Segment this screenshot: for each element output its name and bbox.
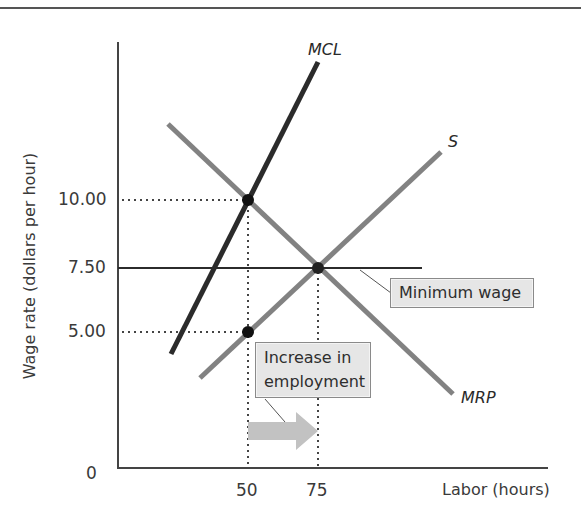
minimum-wage-callout: Minimum wage (390, 278, 534, 308)
x-tick-50: 50 (236, 480, 258, 500)
point-supply-50 (242, 326, 254, 338)
mcl-curve (171, 62, 318, 354)
y-tick-7-50: 7.50 (68, 257, 106, 277)
y-tick-10: 10.00 (58, 189, 107, 209)
minimum-wage-callout-text: Minimum wage (399, 283, 521, 302)
point-mcl-mrp (242, 194, 254, 206)
origin-label: 0 (86, 463, 97, 483)
y-tick-5: 5.00 (68, 321, 106, 341)
x-axis-label: Labor (hours) (442, 480, 550, 499)
supply-label: S (448, 132, 458, 151)
increase-employment-callout: Increase in employment (255, 342, 371, 398)
x-tick-75: 75 (306, 480, 328, 500)
increase-callout-line-2: employment (264, 370, 362, 394)
min-wage-leader (360, 270, 391, 293)
increase-arrow (248, 412, 318, 450)
increase-callout-line-1: Increase in (264, 346, 362, 370)
increase-leader (265, 399, 285, 422)
mcl-label: MCL (308, 40, 342, 59)
point-min-wage-equilibrium (312, 262, 324, 274)
y-axis-label: Wage rate (dollars per hour) (20, 153, 39, 380)
mrp-label: MRP (461, 388, 496, 407)
